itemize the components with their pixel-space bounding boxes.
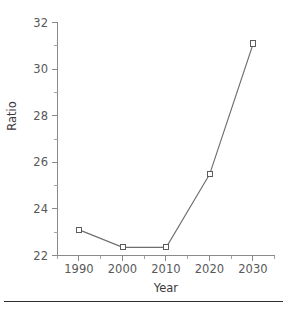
data-series-line bbox=[79, 43, 253, 247]
data-point-markers bbox=[77, 41, 256, 250]
y-tick-label-24: 24 bbox=[33, 202, 48, 216]
x-tick-label-2030: 2030 bbox=[238, 262, 267, 276]
x-tick-label-2020: 2020 bbox=[195, 262, 224, 276]
y-tick-label-22: 22 bbox=[33, 249, 48, 263]
x-tick-label-2000: 2000 bbox=[108, 262, 137, 276]
y-tick-label-28: 28 bbox=[33, 109, 48, 123]
data-point-2030 bbox=[251, 41, 256, 46]
data-point-2010 bbox=[164, 245, 169, 250]
y-tick-label-32: 32 bbox=[33, 16, 48, 30]
data-point-2020 bbox=[207, 171, 212, 176]
x-axis-major-ticks bbox=[79, 256, 253, 262]
y-tick-label-26: 26 bbox=[33, 155, 48, 169]
data-point-2000 bbox=[120, 245, 125, 250]
x-tick-label-1990: 1990 bbox=[64, 262, 93, 276]
y-tick-label-30: 30 bbox=[33, 62, 48, 76]
data-point-1990 bbox=[77, 227, 82, 232]
x-axis-title: Year bbox=[153, 281, 179, 295]
x-tick-label-2010: 2010 bbox=[151, 262, 180, 276]
chart-figure: 32 30 28 26 24 22 1990 2000 2010 2020 20… bbox=[0, 0, 287, 310]
y-axis-title: Ratio bbox=[5, 101, 19, 131]
line-chart: 32 30 28 26 24 22 1990 2000 2010 2020 20… bbox=[0, 0, 287, 310]
